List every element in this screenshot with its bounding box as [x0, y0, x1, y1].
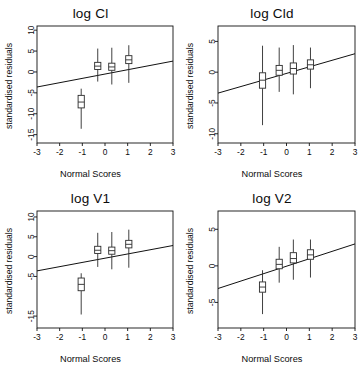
reference-line	[218, 54, 355, 93]
panel-log-cl: log Cl standardised residuals -15-10-505…	[0, 0, 181, 185]
y-tick-label: 0	[26, 254, 36, 259]
y-tick-label: -5	[26, 89, 36, 97]
y-tick-label: 5	[207, 39, 217, 44]
box-plot	[290, 240, 296, 280]
x-tick-label: 0	[103, 332, 108, 342]
x-axis-label: Normal Scores	[0, 169, 181, 179]
x-tick-label: -2	[56, 332, 64, 342]
box-plot	[78, 273, 84, 314]
y-tick-label: 10	[26, 25, 36, 35]
y-tick-label: 5	[26, 234, 36, 239]
x-tick-label: 3	[353, 332, 358, 342]
y-tick-label: -10	[207, 127, 217, 139]
box-plot	[307, 240, 313, 278]
x-tick-label: 0	[103, 147, 108, 157]
box-plot	[109, 48, 115, 85]
y-tick-label: -5	[207, 99, 217, 107]
box-plot	[290, 45, 296, 94]
box-plot	[276, 247, 282, 283]
box-plot	[109, 232, 115, 269]
plot-area: -10-505-3-2-10123	[181, 0, 363, 185]
reference-line	[218, 244, 355, 289]
x-tick-label: 1	[125, 147, 130, 157]
y-tick-label: 0	[26, 69, 36, 74]
y-tick-label: -5	[26, 272, 36, 280]
reference-line	[37, 61, 173, 87]
x-tick-label: 2	[330, 147, 335, 157]
x-tick-label: -3	[214, 147, 222, 157]
x-tick-label: -1	[260, 147, 268, 157]
x-tick-label: -2	[237, 147, 245, 157]
panel-log-v2: log V2 standardised residuals -505-3-2-1…	[181, 185, 363, 370]
x-tick-label: 0	[284, 147, 289, 157]
x-tick-label: -3	[33, 147, 41, 157]
x-tick-label: 3	[171, 147, 176, 157]
y-tick-label: 0	[207, 263, 217, 268]
box-plot	[259, 46, 265, 125]
x-tick-label: 2	[148, 147, 153, 157]
box-plot	[276, 48, 282, 92]
x-tick-label: -1	[79, 147, 87, 157]
box-plot	[307, 48, 313, 89]
x-tick-label: -3	[214, 332, 222, 342]
reference-line	[37, 246, 173, 271]
x-tick-label: -1	[260, 332, 268, 342]
plot-area: -505-3-2-10123	[181, 185, 363, 370]
box-plot	[78, 89, 84, 129]
figure-panel-grid: log Cl standardised residuals -15-10-505…	[0, 0, 363, 370]
y-tick-label: 0	[207, 70, 217, 75]
box-plot	[126, 230, 132, 268]
x-tick-label: 1	[307, 147, 312, 157]
x-tick-label: 2	[148, 332, 153, 342]
y-tick-label: -15	[26, 128, 36, 140]
box-plot	[95, 233, 101, 267]
panel-log-cld: log Cld standardised residuals -10-505-3…	[181, 0, 363, 185]
x-tick-label: 3	[353, 147, 358, 157]
x-tick-label: 3	[171, 332, 176, 342]
x-tick-label: 2	[330, 332, 335, 342]
y-tick-label: 5	[26, 48, 36, 53]
x-tick-label: -1	[79, 332, 87, 342]
x-tick-label: 1	[125, 332, 130, 342]
x-tick-label: 0	[284, 332, 289, 342]
y-tick-label: -10	[26, 107, 36, 119]
y-tick-label: -5	[207, 298, 217, 306]
x-axis-label: Normal Scores	[181, 354, 363, 364]
x-tick-label: -2	[56, 147, 64, 157]
y-tick-label: -15	[26, 310, 36, 322]
y-tick-label: 5	[207, 227, 217, 232]
panel-log-v1: log V1 standardised residuals -15-50510-…	[0, 185, 181, 370]
box-plot	[126, 45, 132, 83]
x-tick-label: 1	[307, 332, 312, 342]
x-tick-label: -3	[33, 332, 41, 342]
box-plot	[95, 49, 101, 82]
x-axis-label: Normal Scores	[181, 169, 363, 179]
plot-area: -15-10-50510-3-2-10123	[0, 0, 181, 185]
x-tick-label: -2	[237, 332, 245, 342]
x-axis-label: Normal Scores	[0, 354, 181, 364]
y-tick-label: 10	[26, 212, 36, 222]
plot-area: -15-50510-3-2-10123	[0, 185, 181, 370]
box-plot	[259, 270, 265, 314]
